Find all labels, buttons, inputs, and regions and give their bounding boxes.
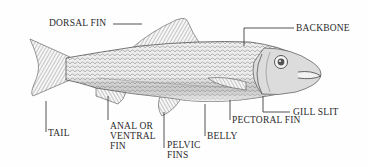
fish-head: [253, 48, 321, 95]
label-tail: TAIL: [48, 128, 70, 138]
label-pectoral-fin: PECTORAL FIN: [232, 115, 301, 125]
label-anal-fin: ANAL OR VENTRAL FIN: [110, 121, 156, 151]
label-belly: BELLY: [207, 131, 238, 141]
label-gill-slit: GILL SLIT: [293, 107, 339, 117]
label-dorsal-fin: DORSAL FIN: [49, 18, 106, 28]
leader-gill-slit: [263, 96, 290, 112]
label-pelvic-fins: PELVIC FINS: [167, 140, 201, 160]
tail-fin: [30, 39, 70, 96]
fish-anatomy-diagram: DORSAL FIN BACKBONE TAIL ANAL OR VENTRAL…: [0, 0, 368, 167]
label-backbone: BACKBONE: [296, 23, 350, 33]
